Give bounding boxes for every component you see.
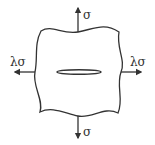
bottom-stress-label: σ: [83, 125, 91, 139]
crack: [57, 70, 101, 75]
biaxial-plate-diagram: σ σ λσ λσ: [0, 0, 155, 145]
top-stress-label: σ: [83, 8, 91, 22]
right-stress-label: λσ: [130, 55, 146, 69]
left-stress-label: λσ: [10, 55, 26, 69]
